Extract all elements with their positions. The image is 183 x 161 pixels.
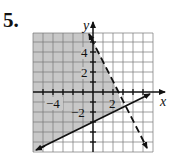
x-axis-label: x <box>159 94 167 109</box>
x-tick-label-2: 2 <box>109 96 116 111</box>
inequality-graph: −4 2 4 2 −2 x y <box>0 0 183 161</box>
y-tick-label-4: 4 <box>81 45 88 60</box>
y-tick-label-2: 2 <box>81 65 88 80</box>
x-tick-label-neg4: −4 <box>46 96 60 111</box>
y-tick-label-neg2: −2 <box>71 105 85 120</box>
y-axis-label: y <box>81 18 90 33</box>
